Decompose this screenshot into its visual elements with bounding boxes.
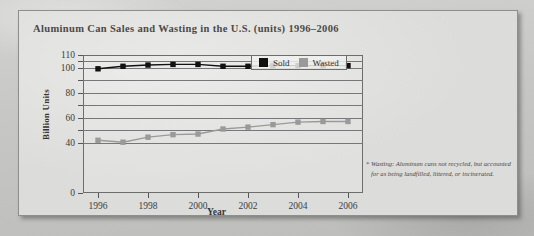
data-point-wasted (245, 124, 250, 129)
legend-swatch-icon (299, 58, 308, 67)
data-point-sold (145, 62, 150, 67)
series-line-wasted (98, 121, 348, 142)
data-point-wasted (120, 139, 125, 144)
data-point-wasted (95, 138, 100, 143)
data-point-sold (120, 64, 125, 69)
data-point-wasted (295, 119, 300, 124)
x-tick-label: 2006 (339, 201, 358, 211)
data-point-wasted (145, 134, 150, 139)
x-tick (198, 193, 199, 198)
footnote-marker: * (366, 159, 369, 169)
x-tick (348, 193, 349, 198)
data-point-wasted (195, 131, 200, 136)
x-tick-label: 1996 (89, 201, 108, 211)
y-tick-label: 40 (66, 138, 76, 148)
x-tick (248, 193, 249, 198)
y-tick-label: 0 (70, 188, 75, 198)
x-tick-label: 2004 (289, 201, 308, 211)
y-tick-label: 100 (61, 63, 75, 73)
y-tick-label: 110 (61, 50, 75, 60)
x-axis-title: Year (207, 207, 226, 217)
x-tick (98, 193, 99, 198)
y-axis-title: Billion Units (41, 89, 51, 140)
footnote-text: Wasting: Aluminum cans not recycled, but… (371, 160, 511, 177)
series-layer (83, 55, 363, 193)
data-point-wasted (220, 126, 225, 131)
data-point-sold (220, 64, 225, 69)
y-tick-label: 60 (66, 113, 76, 123)
y-tick (78, 193, 83, 194)
data-point-sold (170, 62, 175, 67)
data-point-wasted (320, 119, 325, 124)
x-tick (148, 193, 149, 198)
data-point-sold (195, 62, 200, 67)
data-point-wasted (270, 122, 275, 127)
legend-swatch-icon (259, 58, 268, 67)
data-point-sold (95, 66, 100, 71)
x-tick-label: 2002 (239, 201, 258, 211)
chart-figure: Aluminum Can Sales and Wasting in the U.… (18, 10, 518, 216)
x-tick (298, 193, 299, 198)
legend-label: Wasted (313, 58, 339, 68)
legend-item-wasted: Wasted (299, 58, 339, 68)
data-point-wasted (170, 132, 175, 137)
x-tick-label: 1998 (139, 201, 158, 211)
chart-title: Aluminum Can Sales and Wasting in the U.… (33, 23, 339, 34)
data-point-sold (245, 64, 250, 69)
legend-label: Sold (273, 58, 290, 68)
chart-footnote: * Wasting: Aluminum cans not recycled, b… (371, 159, 511, 178)
x-tick-label: 2000 (189, 201, 208, 211)
y-tick-label: 80 (66, 88, 76, 98)
data-point-wasted (345, 119, 350, 124)
legend-item-sold: Sold (259, 58, 290, 68)
plot-area: 0406080100110 199619982000200220042006 (83, 55, 363, 193)
chart-legend: SoldWasted (251, 55, 347, 70)
